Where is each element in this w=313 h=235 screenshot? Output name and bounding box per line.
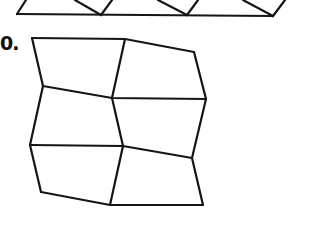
left-boundary [30,38,43,192]
top-edge [32,38,194,52]
lower-row-divider [30,145,192,158]
center-vertical [110,39,125,205]
previous-figure-triangle-strip [17,0,285,16]
quadrilateral-tessellation [30,38,206,205]
figure-canvas [0,0,313,235]
upper-row-divider [43,86,206,99]
right-boundary [192,52,206,205]
bottom-edge [41,192,203,205]
